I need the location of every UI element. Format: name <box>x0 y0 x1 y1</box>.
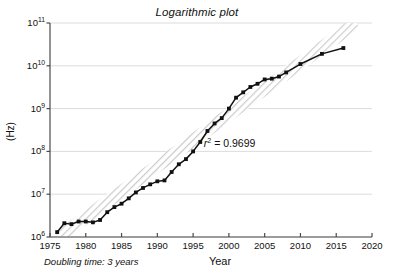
logarithmic-plot-chart: Logarithmic plot (Hz) Year Doubling time… <box>0 0 394 279</box>
plot-area <box>0 0 394 279</box>
